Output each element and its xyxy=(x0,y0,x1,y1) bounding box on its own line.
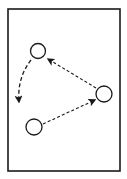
cycle-diagram xyxy=(0,0,127,179)
node-right xyxy=(96,86,112,102)
arrow-bottom-left-to-right xyxy=(43,100,95,124)
arrow-right-to-top-left xyxy=(48,59,96,88)
node-bottom-left xyxy=(26,119,42,135)
node-top-left xyxy=(31,44,46,59)
arrow-top-left-to-bottom-left xyxy=(19,60,31,102)
